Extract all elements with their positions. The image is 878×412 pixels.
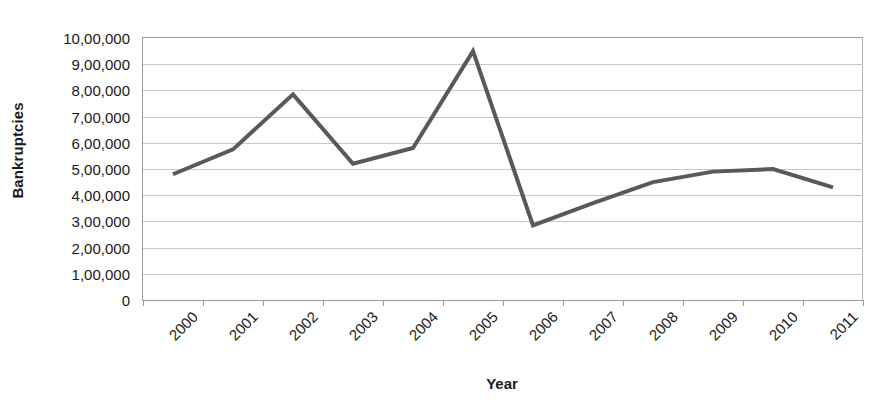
x-axis-tick xyxy=(563,300,564,306)
y-axis-tick-label: 6,00,000 xyxy=(72,134,130,151)
x-axis-tick xyxy=(323,300,324,306)
x-axis-tick xyxy=(863,300,864,306)
y-axis-tick-label: 0 xyxy=(122,292,130,309)
x-axis-tick xyxy=(263,300,264,306)
x-axis-tick xyxy=(443,300,444,306)
y-axis-tick-label: 8,00,000 xyxy=(72,82,130,99)
x-axis-tick-label: 2011 xyxy=(826,308,861,343)
x-axis-tick xyxy=(143,300,144,306)
y-axis-title-text: Bankruptcies xyxy=(9,102,26,198)
y-axis-tick-label: 9,00,000 xyxy=(72,56,130,73)
x-axis-tick xyxy=(803,300,804,306)
series-line-bankruptcies xyxy=(143,38,863,300)
y-axis-tick-label: 7,00,000 xyxy=(72,108,130,125)
x-axis-tick-label: 2001 xyxy=(225,308,261,344)
line-chart: Bankruptcies 01,00,0002,00,0003,00,0004,… xyxy=(0,0,878,412)
y-axis-tick-label: 3,00,000 xyxy=(72,213,130,230)
x-axis-tick-label: 2000 xyxy=(165,308,201,344)
y-axis-tick-label: 2,00,000 xyxy=(72,239,130,256)
x-axis-tick xyxy=(383,300,384,306)
x-axis-tick-label: 2006 xyxy=(525,308,561,344)
y-axis-tick-label: 5,00,000 xyxy=(72,161,130,178)
x-axis-tick-label: 2010 xyxy=(765,308,801,344)
x-axis-tick-label: 2008 xyxy=(645,308,681,344)
x-axis-tick xyxy=(683,300,684,306)
x-axis-tick-label: 2003 xyxy=(345,308,381,344)
x-axis-tick xyxy=(203,300,204,306)
x-axis-tick-label: 2009 xyxy=(705,308,741,344)
x-axis-tick-label: 2005 xyxy=(465,308,501,344)
x-axis-tick xyxy=(743,300,744,306)
x-axis-title: Year xyxy=(142,375,862,392)
x-axis-tick xyxy=(503,300,504,306)
y-axis-tick-label: 10,00,000 xyxy=(63,30,130,47)
x-axis-tick xyxy=(623,300,624,306)
plot-area xyxy=(142,38,863,301)
y-axis-tick-label: 1,00,000 xyxy=(72,265,130,282)
x-axis-tick-label: 2007 xyxy=(585,308,621,344)
x-axis-tick-label: 2004 xyxy=(405,308,441,344)
x-axis-tick-label: 2002 xyxy=(285,308,321,344)
y-axis-tick-label: 4,00,000 xyxy=(72,187,130,204)
y-axis-title: Bankruptcies xyxy=(0,0,34,300)
y-axis-tick-labels: 01,00,0002,00,0003,00,0004,00,0005,00,00… xyxy=(34,38,136,300)
x-axis-tick-labels: 2000200120022003200420052006200720082009… xyxy=(142,308,862,368)
